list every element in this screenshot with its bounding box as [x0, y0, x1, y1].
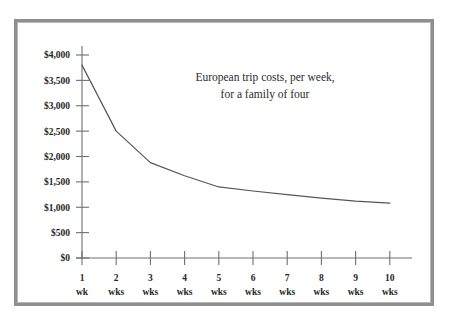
x-tick-number: 10 — [385, 273, 395, 283]
x-tick-unit: wks — [348, 287, 364, 297]
x-tick-number: 8 — [319, 273, 324, 283]
chart-figure: $0$500$1,000$1,500$2,000$2,500$3,000$3,5… — [0, 0, 450, 329]
chart-title-line-1: European trip costs, per week, — [195, 71, 334, 84]
y-tick-label: $1,000 — [44, 203, 70, 213]
x-tick-unit: wks — [177, 287, 193, 297]
y-tick-label: $3,500 — [44, 76, 70, 86]
x-tick-unit: wks — [245, 287, 261, 297]
y-tick-label: $0 — [61, 253, 71, 263]
x-tick-unit: wks — [382, 287, 398, 297]
y-tick-label: $1,500 — [44, 177, 70, 187]
x-tick-number: 9 — [353, 273, 358, 283]
x-tick-number: 3 — [148, 273, 153, 283]
x-tick-unit: wk — [76, 287, 89, 297]
x-tick-unit: wks — [142, 287, 158, 297]
x-tick-number: 5 — [216, 273, 221, 283]
x-tick-labels: 1wk2wks3wks4wks5wks6wks7wks8wks9wks10wks — [76, 273, 398, 297]
y-tick-labels: $0$500$1,000$1,500$2,000$2,500$3,000$3,5… — [44, 50, 70, 263]
y-tick-label: $2,500 — [44, 127, 70, 137]
y-tick-label: $2,000 — [44, 152, 70, 162]
y-tick-label: $3,000 — [44, 101, 70, 111]
x-tick-number: 1 — [80, 273, 85, 283]
x-tick-unit: wks — [211, 287, 227, 297]
x-tick-unit: wks — [108, 287, 124, 297]
y-tick-label: $4,000 — [44, 50, 70, 60]
chart-title-line-2: for a family of four — [221, 88, 310, 101]
x-tick-number: 7 — [285, 273, 290, 283]
line-chart-plot: $0$500$1,000$1,500$2,000$2,500$3,000$3,5… — [0, 0, 450, 329]
x-tick-number: 2 — [114, 273, 119, 283]
x-tick-number: 4 — [182, 273, 187, 283]
x-tick-unit: wks — [313, 287, 329, 297]
x-tick-unit: wks — [279, 287, 295, 297]
y-tick-label: $500 — [51, 228, 70, 238]
data-series-line — [82, 65, 390, 203]
x-tick-number: 6 — [251, 273, 256, 283]
